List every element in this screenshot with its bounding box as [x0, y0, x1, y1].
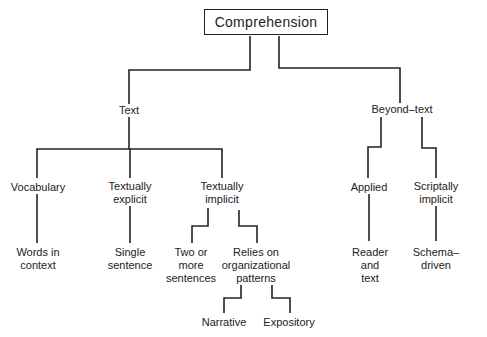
node-words-in-context: Words in context [15, 246, 60, 272]
node-reader-and-text: Reader and text [351, 246, 389, 285]
node-scriptally-implicit: Scriptally implicit [413, 180, 460, 206]
node-single-sentence: Single sentence [107, 246, 154, 272]
node-expository: Expository [262, 316, 315, 329]
node-schema-driven: Schema–driven [411, 246, 462, 272]
node-two-or-more-sentences: Two or more sentences [165, 246, 217, 285]
node-text: Text [118, 104, 140, 117]
node-relies-on-patterns: Relies on organizational patterns [221, 246, 292, 285]
root-node-comprehension: Comprehension [204, 9, 328, 35]
root-label: Comprehension [215, 14, 318, 30]
node-textually-implicit: Textually implicit [200, 180, 245, 206]
node-vocabulary: Vocabulary [10, 181, 66, 194]
node-textually-explicit: Textually explicit [108, 180, 153, 206]
connector-lines [0, 0, 487, 337]
node-applied: Applied [350, 181, 389, 194]
node-narrative: Narrative [201, 316, 248, 329]
node-beyond-text: Beyond–text [370, 103, 433, 116]
